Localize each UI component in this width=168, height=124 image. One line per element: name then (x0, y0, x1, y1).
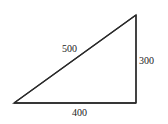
height-label: 300 (139, 55, 154, 66)
hypotenuse-side (14, 15, 136, 103)
right-triangle-diagram: 500 300 400 (0, 0, 168, 124)
hypotenuse-label: 500 (62, 43, 77, 54)
base-label: 400 (72, 107, 87, 118)
